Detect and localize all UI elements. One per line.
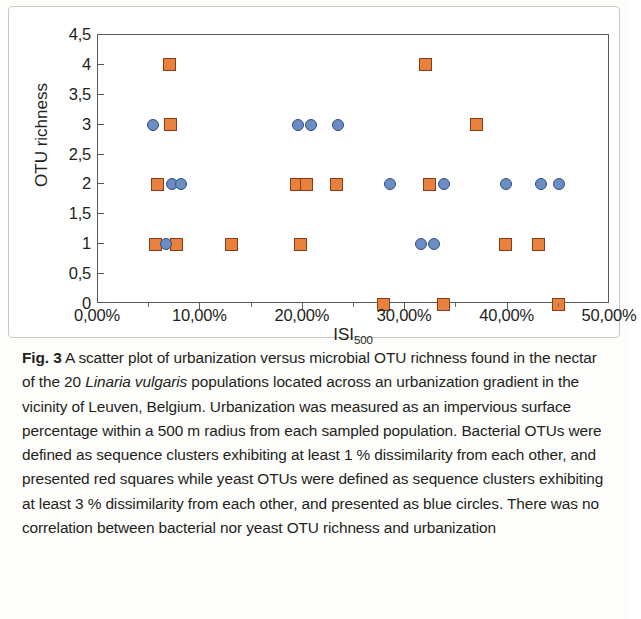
data-point-bacterial-square [532, 238, 545, 251]
y-axis-tick-mark [97, 273, 104, 274]
data-point-bacterial-square [164, 118, 177, 131]
figure-caption: Fig. 3 A scatter plot of urbanization ve… [22, 346, 610, 540]
x-axis-minor-tick-mark [148, 303, 149, 307]
chart-panel: 00,511,522,533,544,5 OTU richness 0,00%1… [8, 6, 620, 338]
x-axis-minor-tick-mark [251, 303, 252, 307]
data-point-bacterial-square [300, 178, 313, 191]
y-axis-tick-mark [97, 183, 104, 184]
data-point-yeast-circle [553, 178, 565, 190]
data-point-yeast-circle [147, 119, 159, 131]
data-point-bacterial-square [470, 118, 483, 131]
data-point-yeast-circle [332, 119, 344, 131]
x-axis-tick-label: 50,00% [561, 306, 641, 324]
plot-area [97, 34, 609, 303]
y-axis-tick-mark [97, 154, 104, 155]
y-axis-tick-label: 1 [43, 235, 91, 251]
y-axis-tick-mark [97, 124, 104, 125]
y-axis-tick-mark [97, 94, 104, 95]
y-axis-tick-mark [97, 243, 104, 244]
y-axis-tick-mark [97, 213, 104, 214]
figure-label: Fig. 3 [22, 349, 62, 366]
y-axis-tick-label: 0,5 [43, 265, 91, 281]
data-point-yeast-circle [292, 119, 304, 131]
data-point-bacterial-square [419, 58, 432, 71]
data-point-yeast-circle [160, 238, 172, 250]
x-axis-title-main: ISI [333, 325, 354, 344]
data-point-bacterial-square [423, 178, 436, 191]
x-axis-minor-tick-mark [353, 303, 354, 307]
x-axis-minor-tick-mark [455, 303, 456, 307]
data-point-yeast-circle [428, 238, 440, 250]
x-axis-minor-tick-mark [558, 303, 559, 307]
data-point-yeast-circle [438, 178, 450, 190]
x-axis-tick-mark [507, 303, 508, 309]
data-point-yeast-circle [535, 178, 547, 190]
data-point-yeast-circle [500, 178, 512, 190]
y-axis-tick-mark [97, 64, 104, 65]
x-axis-tick-mark [404, 303, 405, 309]
data-point-bacterial-square [330, 178, 343, 191]
data-point-bacterial-square [294, 238, 307, 251]
x-axis-tick-mark [199, 303, 200, 309]
data-point-yeast-circle [305, 119, 317, 131]
y-axis-title: OTU richness [32, 40, 52, 230]
data-point-bacterial-square [163, 58, 176, 71]
x-axis-title: ISI500 [97, 325, 609, 346]
data-point-bacterial-square [225, 238, 238, 251]
data-point-bacterial-square [499, 238, 512, 251]
data-point-yeast-circle [384, 178, 396, 190]
data-point-bacterial-square [170, 238, 183, 251]
x-axis-tick-label: 0,00% [49, 306, 145, 324]
data-point-yeast-circle [175, 178, 187, 190]
data-point-bacterial-square [151, 178, 164, 191]
species-name: Linaria vulgaris [85, 373, 187, 390]
caption-part-2: populations located across an urbanizati… [22, 373, 603, 536]
data-point-yeast-circle [415, 238, 427, 250]
x-axis-title-subscript: 500 [354, 334, 373, 346]
x-axis-tick-mark [302, 303, 303, 309]
